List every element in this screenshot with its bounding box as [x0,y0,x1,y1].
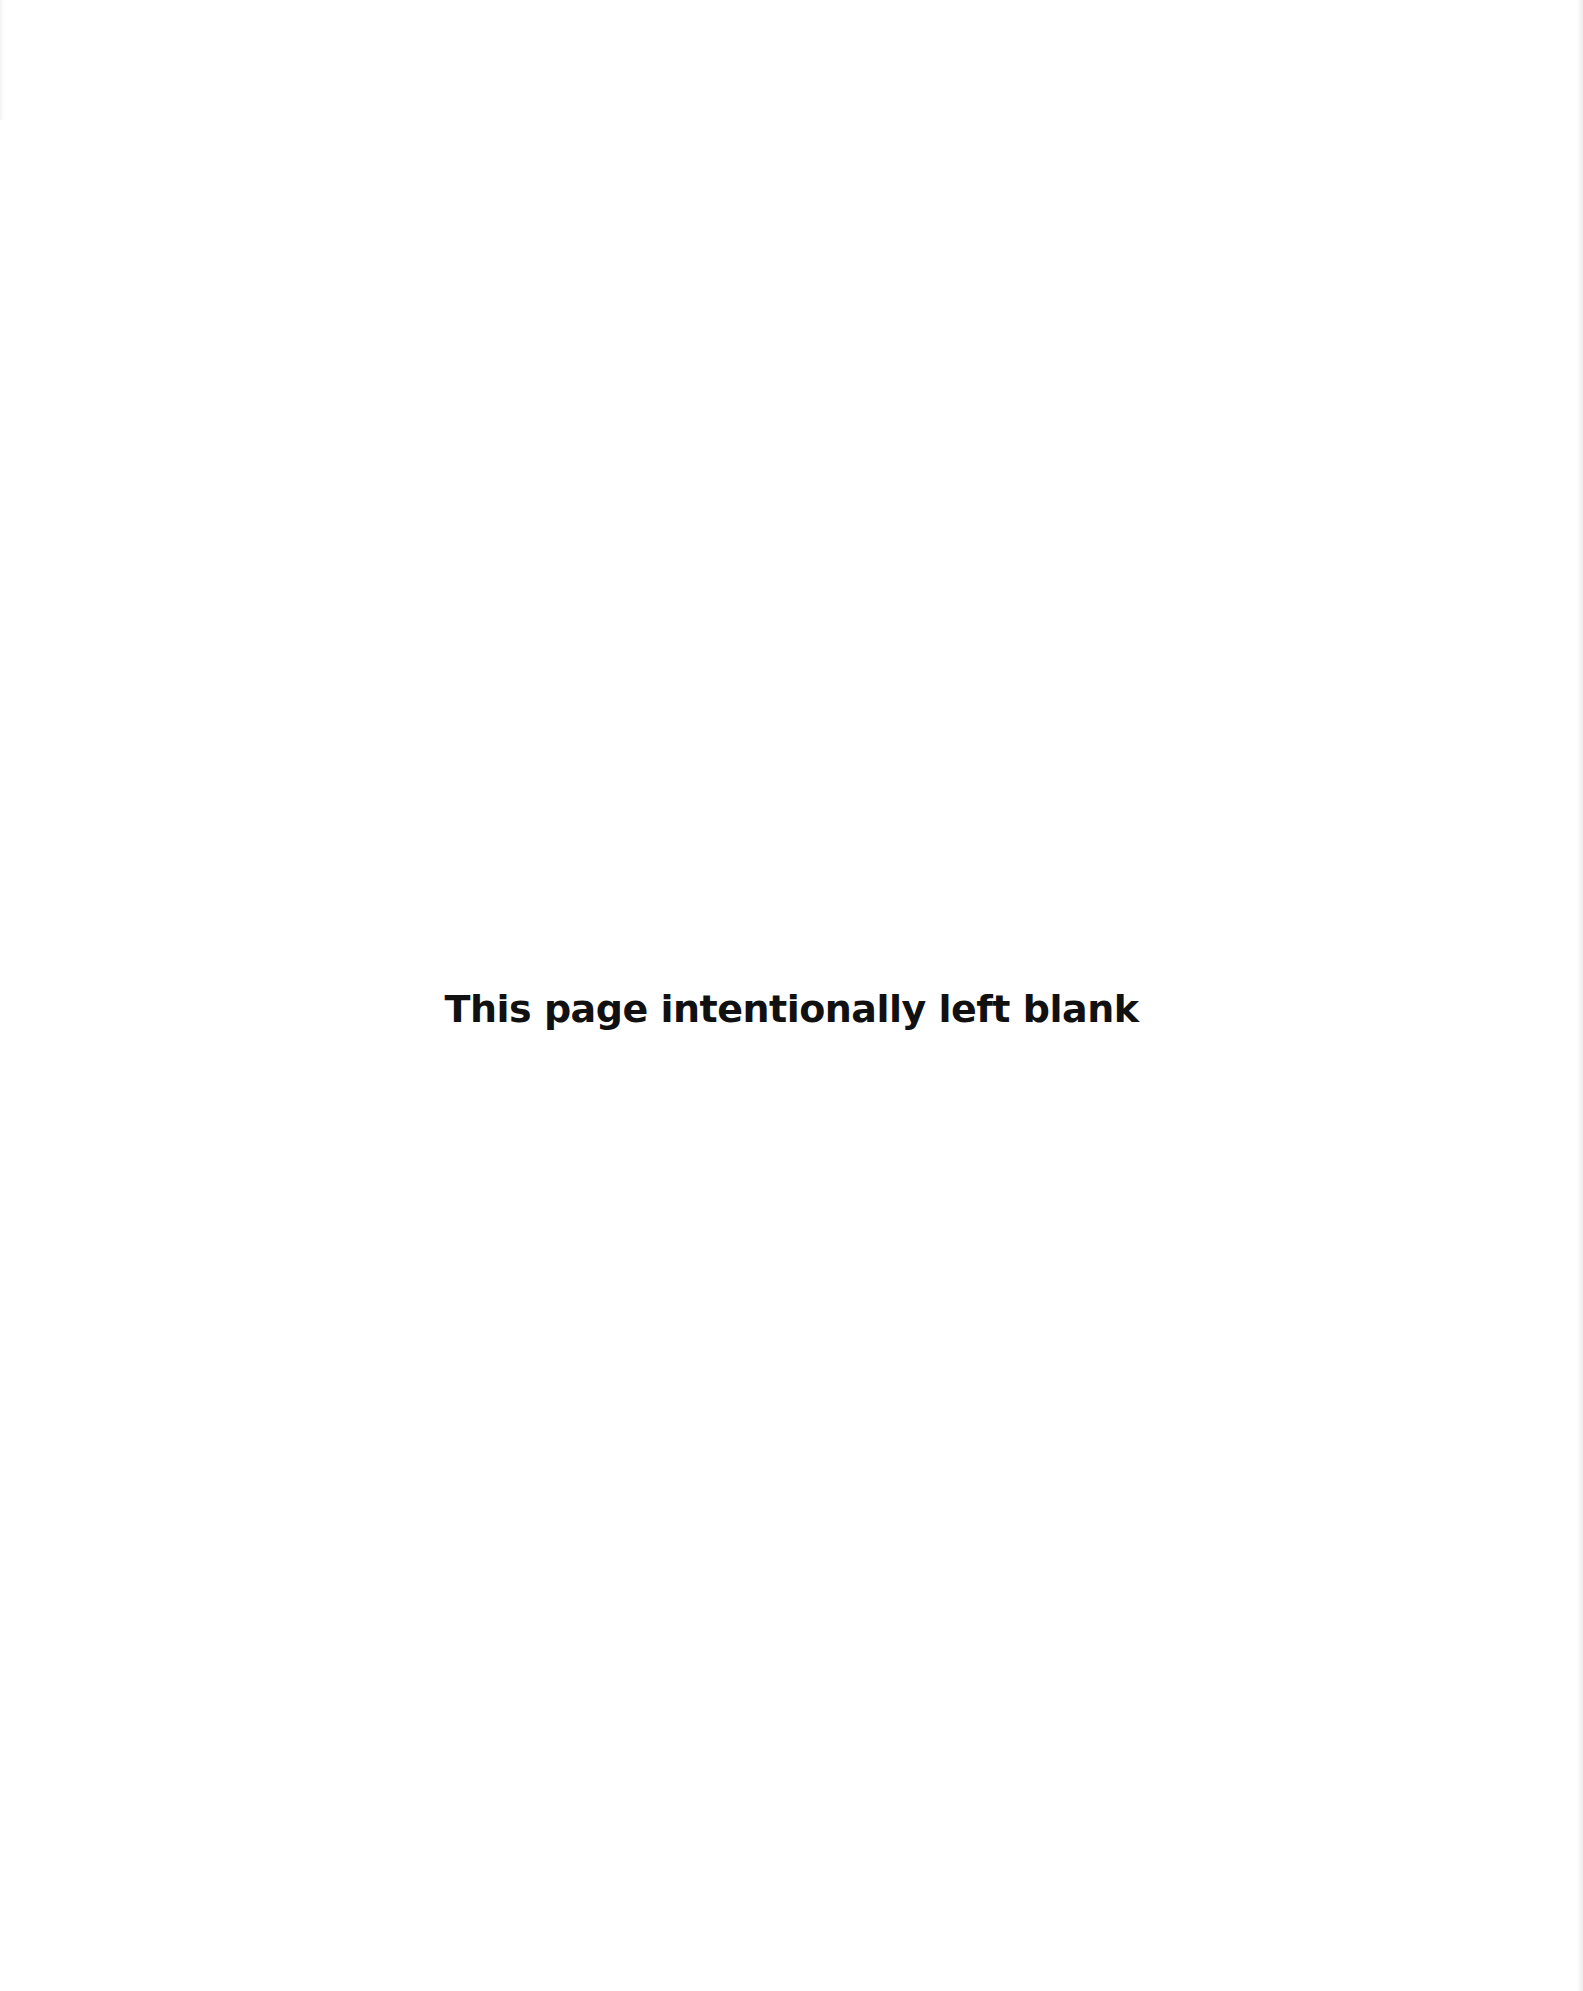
document-page: This page intentionally left blank [0,0,1583,1991]
blank-page-notice: This page intentionally left blank [0,983,1583,1035]
scan-edge-shadow-left [0,0,4,120]
